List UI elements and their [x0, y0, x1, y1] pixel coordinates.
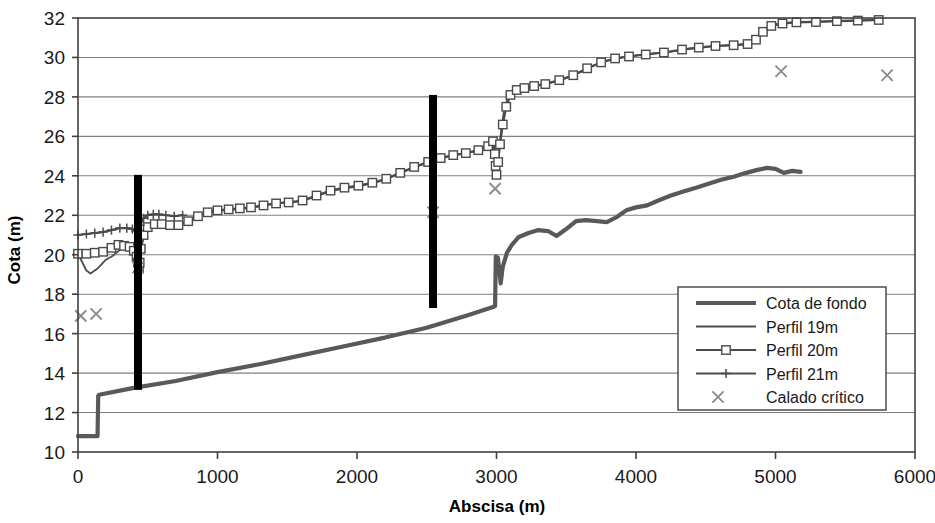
x-tick-label: 6000	[894, 466, 935, 487]
data-point-marker	[642, 50, 650, 58]
data-point-marker	[530, 82, 538, 90]
data-point-marker	[752, 36, 760, 44]
data-point-marker	[474, 146, 482, 154]
y-tick-label: 30	[44, 47, 65, 68]
data-point-marker	[611, 54, 619, 62]
data-point-marker	[729, 41, 737, 49]
data-point-marker	[184, 217, 192, 225]
y-tick-label: 20	[44, 245, 65, 266]
x-tick-label: 0	[73, 466, 84, 487]
data-point-marker	[496, 140, 504, 148]
data-point-marker	[541, 80, 549, 88]
vertical-marker-bar	[134, 175, 142, 390]
data-point-marker	[695, 43, 703, 51]
data-point-marker	[491, 150, 499, 158]
vertical-marker-bar	[429, 95, 437, 308]
data-point-marker	[284, 198, 292, 206]
x-tick-label: 4000	[615, 466, 657, 487]
legend-label: Perfil 19m	[766, 319, 838, 336]
x-axis-title: Abscisa (m)	[449, 497, 545, 516]
data-point-marker	[569, 71, 577, 79]
data-point-marker	[778, 19, 786, 27]
data-point-marker	[166, 221, 174, 229]
data-point-marker	[382, 175, 390, 183]
data-point-marker	[743, 40, 751, 48]
data-point-marker	[298, 196, 306, 204]
legend-label: Perfil 21m	[766, 366, 838, 383]
data-point-marker	[99, 248, 107, 256]
data-point-marker	[812, 18, 820, 26]
legend-label: Calado crítico	[766, 389, 864, 406]
data-point-marker	[158, 220, 166, 228]
legend-label: Cota de fondo	[766, 295, 867, 312]
x-tick-label: 2000	[336, 466, 378, 487]
data-point-marker	[224, 205, 232, 213]
data-point-marker	[678, 45, 686, 53]
data-point-marker	[625, 52, 633, 60]
data-point-marker	[368, 179, 376, 187]
data-point-marker	[396, 169, 404, 177]
y-tick-label: 10	[44, 442, 65, 463]
data-point-marker	[410, 163, 418, 171]
data-point-marker	[326, 186, 334, 194]
data-point-marker	[236, 204, 244, 212]
data-point-marker	[792, 18, 800, 26]
data-point-marker	[499, 120, 507, 128]
y-tick-label: 24	[44, 166, 66, 187]
y-tick-label: 16	[44, 324, 65, 345]
data-point-marker	[82, 250, 90, 258]
y-tick-label: 22	[44, 205, 65, 226]
data-point-marker	[583, 64, 591, 72]
x-tick-label: 3000	[475, 466, 517, 487]
data-point-marker	[437, 154, 445, 162]
x-tick-label: 1000	[196, 466, 238, 487]
data-point-marker	[247, 203, 255, 211]
y-tick-label: 26	[44, 126, 65, 147]
data-point-marker	[340, 183, 348, 191]
elevation-profile-chart: 1012141618202224262830320100020003000400…	[0, 0, 935, 523]
data-point-marker	[711, 42, 719, 50]
data-point-marker	[759, 28, 767, 36]
data-point-marker	[204, 208, 212, 216]
data-point-marker	[875, 16, 883, 24]
data-point-marker	[259, 201, 267, 209]
data-point-marker	[449, 151, 457, 159]
y-axis-title: Cota (m)	[5, 216, 24, 285]
data-point-marker	[272, 199, 280, 207]
data-point-marker	[213, 206, 221, 214]
x-tick-label: 5000	[754, 466, 796, 487]
data-point-marker	[767, 22, 775, 30]
data-point-marker	[502, 103, 510, 111]
data-point-marker	[91, 249, 99, 257]
data-point-marker	[555, 76, 563, 84]
data-point-marker	[312, 191, 320, 199]
chart-container: 1012141618202224262830320100020003000400…	[0, 0, 935, 523]
data-point-marker	[660, 48, 668, 56]
legend-marker-swatch	[722, 346, 730, 354]
data-point-marker	[520, 84, 528, 92]
y-tick-label: 12	[44, 403, 65, 424]
data-point-marker	[174, 221, 182, 229]
data-point-marker	[194, 212, 202, 220]
y-tick-label: 32	[44, 8, 65, 29]
legend: Cota de fondoPerfil 19mPerfil 20mPerfil …	[678, 287, 886, 410]
data-point-marker	[597, 58, 605, 66]
data-point-marker	[494, 158, 502, 166]
data-point-marker	[462, 149, 470, 157]
data-point-marker	[492, 171, 500, 179]
y-tick-label: 14	[44, 363, 66, 384]
y-tick-label: 18	[44, 284, 65, 305]
data-point-marker	[354, 181, 362, 189]
y-tick-label: 28	[44, 87, 65, 108]
legend-label: Perfil 20m	[766, 342, 838, 359]
